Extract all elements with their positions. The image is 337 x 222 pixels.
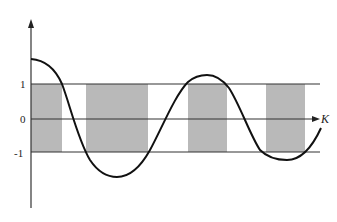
shaded-band-4 xyxy=(266,84,305,152)
y-label-zero: 0 xyxy=(20,113,26,125)
y-label-plus-one: 1 xyxy=(20,78,26,90)
y-label-minus-one: -1 xyxy=(14,147,23,159)
shaded-band-3 xyxy=(188,84,227,152)
x-axis-arrow-icon xyxy=(312,116,320,122)
shaded-band-1 xyxy=(31,84,62,152)
y-axis-arrow-icon xyxy=(28,19,34,28)
shaded-band-2 xyxy=(86,84,148,152)
band-diagram: 1 0 -1 K xyxy=(0,0,337,222)
x-axis-label: K xyxy=(320,112,330,126)
